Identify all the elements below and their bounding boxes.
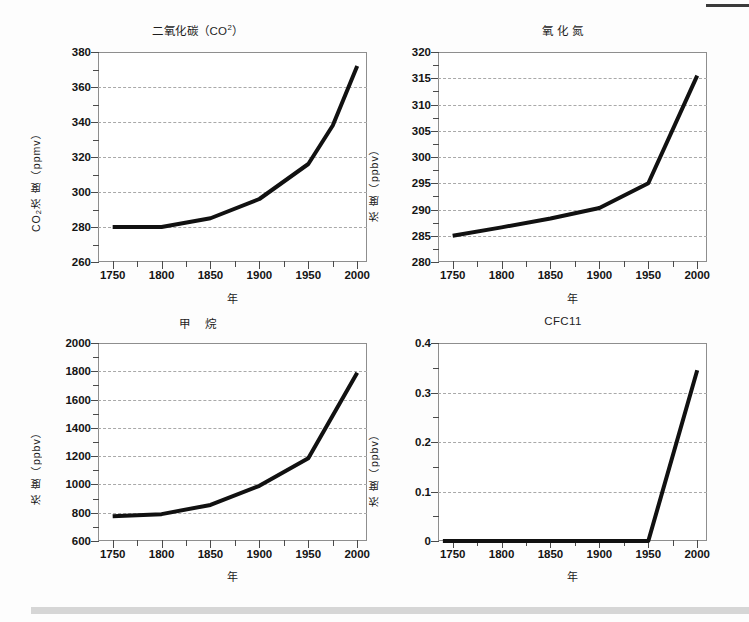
x-tick-label-n2o: 1900 (587, 269, 613, 281)
y-tick-label-ch4: 2000 (65, 337, 91, 349)
x-tick-label-cfc11: 1800 (489, 548, 515, 560)
y-tick-label-ch4: 600 (72, 535, 91, 547)
x-tick-n2o (550, 261, 551, 269)
chart-title-n2o: 氧 化 氮 (388, 22, 738, 38)
x-tick-co2 (357, 261, 358, 269)
y-tick-label-n2o: 285 (412, 230, 431, 242)
y-tick-co2 (91, 262, 99, 263)
x-tick-ch4 (210, 540, 211, 548)
bottom-decorative-rule (31, 607, 749, 614)
y-axis-label-n2o: 浓 度（ppbv） (366, 92, 381, 222)
x-tick-label-co2: 1750 (100, 269, 126, 281)
x-tick-label-cfc11: 1900 (587, 548, 613, 560)
chart-panel-cfc11: CFC11 浓 度（ppbv） 00.10.20.30.417501800185… (388, 315, 738, 595)
x-tick-co2 (210, 261, 211, 269)
y-tick-label-cfc11: 0.1 (415, 486, 431, 498)
x-tick-n2o (502, 261, 503, 269)
y-tick-label-ch4: 1600 (65, 394, 91, 406)
y-tick-ch4 (91, 541, 99, 542)
x-tick-label-co2: 2000 (344, 269, 370, 281)
x-tick-co2 (308, 261, 309, 269)
x-tick-label-co2: 1900 (247, 269, 273, 281)
y-tick-label-n2o: 280 (412, 256, 431, 268)
y-tick-label-n2o: 290 (412, 204, 431, 216)
x-tick-label-co2: 1800 (149, 269, 175, 281)
chart-title-co2: 二氧化碳（CO2） (18, 22, 378, 38)
x-tick-label-n2o: 1950 (636, 269, 662, 281)
x-tick-label-n2o: 1750 (440, 269, 466, 281)
chart-panel-ch4: 甲 烷 浓 度（ppbv） 60080010001200140016001800… (18, 315, 378, 595)
plot-area-cfc11: 00.10.20.30.4175018001850190019502000 (438, 343, 707, 541)
x-tick-n2o (697, 261, 698, 269)
y-tick-label-ch4: 1800 (65, 365, 91, 377)
data-series-co2 (98, 52, 367, 262)
x-tick-label-ch4: 1850 (198, 548, 224, 560)
x-tick-label-n2o: 1800 (489, 269, 515, 281)
x-tick-co2 (162, 261, 163, 269)
y-tick-label-n2o: 295 (412, 177, 431, 189)
y-tick-label-n2o: 315 (412, 72, 431, 84)
chart-title-cfc11: CFC11 (388, 315, 738, 327)
x-tick-ch4 (259, 540, 260, 548)
y-tick-label-n2o: 320 (412, 46, 431, 58)
plot-area-n2o: 2802852902953003053103153201750180018501… (438, 52, 707, 262)
y-tick-label-co2: 260 (72, 256, 91, 268)
y-tick-label-cfc11: 0.2 (415, 436, 431, 448)
plot-area-ch4: 6008001000120014001600180020001750180018… (98, 343, 367, 541)
x-axis-label-cfc11: 年 (438, 568, 707, 584)
x-tick-label-ch4: 2000 (344, 548, 370, 560)
y-tick-label-co2: 360 (72, 81, 91, 93)
top-decorative-rule (706, 4, 749, 7)
data-series-ch4 (98, 343, 367, 541)
x-tick-label-n2o: 2000 (684, 269, 710, 281)
y-tick-label-ch4: 1000 (65, 478, 91, 490)
y-tick-label-ch4: 1400 (65, 422, 91, 434)
x-tick-cfc11 (697, 540, 698, 548)
x-axis-label-n2o: 年 (438, 290, 707, 306)
y-tick-label-co2: 280 (72, 221, 91, 233)
chart-panel-n2o: 氧 化 氮 浓 度（ppbv） 280285290295300305310315… (388, 22, 738, 312)
x-tick-n2o (648, 261, 649, 269)
y-tick-cfc11 (431, 541, 439, 542)
y-axis-label-co2: CO2浓 度（ppmv） (28, 82, 43, 232)
y-tick-label-co2: 340 (72, 116, 91, 128)
y-tick-label-co2: 380 (72, 46, 91, 58)
x-tick-label-cfc11: 1750 (440, 548, 466, 560)
x-axis-label-co2: 年 (98, 290, 367, 306)
y-tick-n2o (431, 262, 439, 263)
data-series-n2o (438, 52, 707, 262)
y-tick-label-n2o: 300 (412, 151, 431, 163)
x-axis-label-ch4: 年 (98, 568, 367, 584)
y-tick-label-co2: 320 (72, 151, 91, 163)
x-tick-co2 (113, 261, 114, 269)
y-tick-label-n2o: 310 (412, 99, 431, 111)
y-tick-label-ch4: 800 (72, 507, 91, 519)
x-tick-label-ch4: 1900 (247, 548, 273, 560)
y-tick-label-n2o: 305 (412, 125, 431, 137)
y-tick-label-cfc11: 0.3 (415, 387, 431, 399)
x-tick-label-n2o: 1850 (538, 269, 564, 281)
x-tick-n2o (599, 261, 600, 269)
y-tick-label-co2: 300 (72, 186, 91, 198)
figure-page: 二氧化碳（CO2） CO2浓 度（ppmv） 26028030032034036… (0, 0, 749, 622)
x-tick-ch4 (308, 540, 309, 548)
x-tick-label-ch4: 1800 (149, 548, 175, 560)
data-series-cfc11 (438, 343, 707, 541)
x-tick-ch4 (357, 540, 358, 548)
x-tick-label-cfc11: 1950 (636, 548, 662, 560)
x-tick-n2o (453, 261, 454, 269)
chart-title-ch4: 甲 烷 (18, 315, 378, 331)
y-axis-label-cfc11: 浓 度（ppbv） (366, 377, 381, 507)
y-tick-label-cfc11: 0.4 (415, 337, 431, 349)
y-tick-label-ch4: 1200 (65, 450, 91, 462)
x-tick-label-ch4: 1950 (296, 548, 322, 560)
x-tick-ch4 (113, 540, 114, 548)
chart-panel-co2: 二氧化碳（CO2） CO2浓 度（ppmv） 26028030032034036… (18, 22, 378, 312)
x-tick-label-cfc11: 2000 (684, 548, 710, 560)
x-tick-co2 (259, 261, 260, 269)
x-tick-ch4 (162, 540, 163, 548)
plot-area-co2: 2602803003203403603801750180018501900195… (98, 52, 367, 262)
x-tick-label-ch4: 1750 (100, 548, 126, 560)
x-tick-label-cfc11: 1850 (538, 548, 564, 560)
x-tick-label-co2: 1950 (296, 269, 322, 281)
